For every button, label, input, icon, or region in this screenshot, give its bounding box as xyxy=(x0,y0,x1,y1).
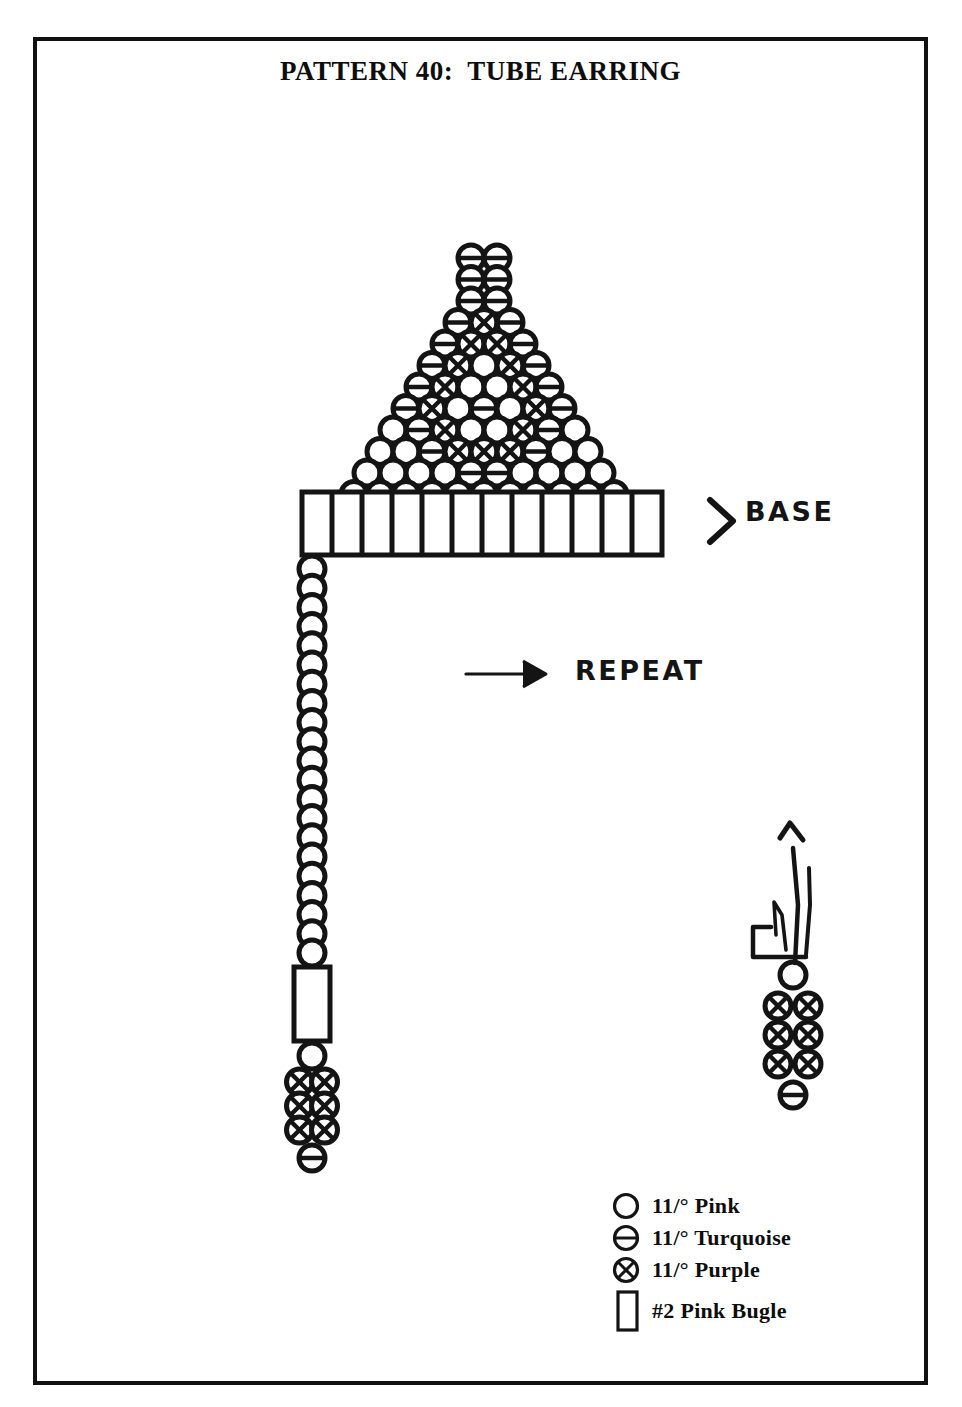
legend-item-bugle: #2 Pink Bugle xyxy=(600,1289,920,1333)
pattern-page: PATTERN 40: TUBE EARRING BASE REPEAT xyxy=(0,0,962,1407)
circle-empty-icon xyxy=(600,1191,652,1221)
page-title: PATTERN 40: TUBE EARRING xyxy=(33,56,928,87)
rectangle-icon xyxy=(600,1289,652,1333)
page-border xyxy=(33,37,928,1385)
legend-label-turquoise: 11/° Turquoise xyxy=(652,1225,791,1251)
legend-item-turquoise: 11/° Turquoise xyxy=(600,1222,920,1253)
legend-label-bugle: #2 Pink Bugle xyxy=(652,1298,787,1324)
legend-item-purple: 11/° Purple xyxy=(600,1254,920,1285)
circle-cross-icon xyxy=(600,1255,652,1285)
base-label: BASE xyxy=(745,496,834,527)
repeat-label: REPEAT xyxy=(575,655,705,686)
legend-item-pink: 11/° Pink xyxy=(600,1190,920,1221)
circle-bar-icon xyxy=(600,1223,652,1253)
legend-label-pink: 11/° Pink xyxy=(652,1193,740,1219)
legend-label-purple: 11/° Purple xyxy=(652,1257,760,1283)
legend: 11/° Pink 11/° Turquoise 11/° Purple #2 … xyxy=(600,1190,920,1334)
